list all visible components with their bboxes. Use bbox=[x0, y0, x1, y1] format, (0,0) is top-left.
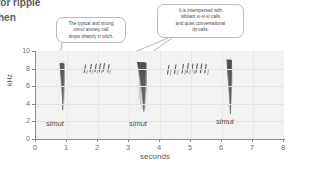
spectrogram-canvas: simut simut simut bbox=[36, 51, 284, 139]
y-tick-label-10: 10 bbox=[12, 47, 30, 54]
x-tick-label-2: 2 bbox=[90, 143, 104, 152]
x-tick-label-0: 0 bbox=[28, 143, 42, 152]
x-tick-label-8: 8 bbox=[276, 143, 290, 152]
y-axis-title: kHz bbox=[6, 74, 13, 86]
y-axis-line bbox=[35, 51, 36, 140]
callout-2-line-4: tip calls. bbox=[162, 27, 239, 33]
annotation-simut-2: simut bbox=[129, 119, 147, 128]
page-fragment-line-2: hen bbox=[0, 12, 16, 23]
x-tick-label-1: 1 bbox=[59, 143, 73, 152]
annotation-simut-3: simut bbox=[216, 117, 234, 126]
x-tick-label-4: 4 bbox=[152, 143, 166, 152]
callout-1-line-3: drops sharply in pitch. bbox=[61, 34, 121, 40]
callout-si-si-si-call: It is interspersed with sibilant si-si-s… bbox=[157, 4, 244, 38]
x-axis-title: seconds bbox=[0, 152, 310, 161]
annotation-simut-1: simut bbox=[46, 119, 64, 128]
x-axis-line bbox=[35, 139, 285, 140]
x-tick-label-5: 5 bbox=[183, 143, 197, 152]
y-tick-label-4: 4 bbox=[12, 100, 30, 107]
y-tick-label-0: 0 bbox=[12, 135, 30, 142]
x-tick-label-3: 3 bbox=[121, 143, 135, 152]
x-tick-label-6: 6 bbox=[214, 143, 228, 152]
figure-root: for ripple hen The typical and strong si… bbox=[0, 0, 310, 172]
callout-anxiety-call: The typical and strong simut anxiety cal… bbox=[56, 17, 126, 43]
y-tick-label-2: 2 bbox=[12, 117, 30, 124]
y-tick-label-8: 8 bbox=[12, 65, 30, 72]
spectrogram-plot-area: simut simut simut bbox=[36, 51, 284, 139]
x-tick-label-7: 7 bbox=[245, 143, 259, 152]
page-fragment-line-1: for ripple bbox=[0, 0, 40, 8]
y-tick-label-6: 6 bbox=[12, 82, 30, 89]
